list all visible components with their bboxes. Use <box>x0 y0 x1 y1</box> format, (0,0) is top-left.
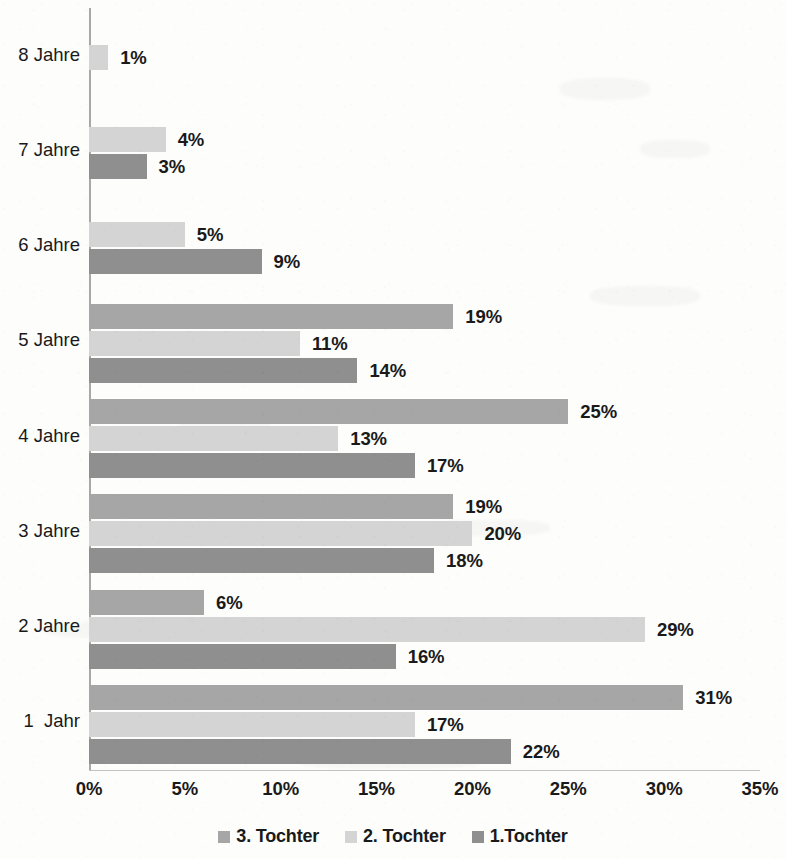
bar-value-label: 16% <box>408 644 445 669</box>
x-axis-tick: 25% <box>550 778 587 800</box>
y-axis-label: 7 Jahre <box>0 139 80 161</box>
legend-item[interactable]: 1.Tochter <box>472 826 568 847</box>
bar-2-1-tochter <box>89 249 262 274</box>
legend-swatch-icon <box>472 831 484 843</box>
y-axis-label: 4 Jahre <box>0 425 80 447</box>
legend-item[interactable]: 3. Tochter <box>218 826 319 847</box>
bar-value-label: 31% <box>695 685 732 710</box>
legend-swatch-icon <box>345 831 357 843</box>
bar-7-2-tochter <box>89 712 415 737</box>
bar-0-2-tochter <box>89 45 108 70</box>
bar-3-3-tochter <box>89 304 453 329</box>
legend-label: 3. Tochter <box>236 826 319 847</box>
bar-5-2-tochter <box>89 521 472 546</box>
y-axis-label: 5 Jahre <box>0 329 80 351</box>
y-axis-label: 8 Jahre <box>0 44 80 66</box>
x-axis-tick: 15% <box>358 778 395 800</box>
bar-6-3-tochter <box>89 590 204 615</box>
x-axis-tick: 20% <box>454 778 491 800</box>
bar-2-2-tochter <box>89 222 185 247</box>
bar-3-2-tochter <box>89 331 300 356</box>
bar-6-1-tochter <box>89 644 396 669</box>
bar-value-label: 20% <box>484 521 521 546</box>
x-axis-line <box>89 770 760 771</box>
bar-1-2-tochter <box>89 127 166 152</box>
y-axis-label: 6 Jahre <box>0 234 80 256</box>
x-axis-tick: 5% <box>171 778 198 800</box>
chart-legend: 3. Tochter2. Tochter1.Tochter <box>0 826 786 847</box>
bar-5-3-tochter <box>89 494 453 519</box>
bar-4-3-tochter <box>89 399 568 424</box>
bar-value-label: 13% <box>350 426 387 451</box>
bar-7-1-tochter <box>89 739 511 764</box>
bar-chart: 8 Jahre7 Jahre6 Jahre5 Jahre4 Jahre3 Jah… <box>0 0 786 859</box>
bar-3-1-tochter <box>89 358 357 383</box>
bar-value-label: 22% <box>523 739 560 764</box>
bar-4-2-tochter <box>89 426 338 451</box>
bar-value-label: 6% <box>216 590 243 615</box>
legend-label: 2. Tochter <box>363 826 446 847</box>
x-axis-tick: 30% <box>646 778 683 800</box>
bar-1-1-tochter <box>89 154 147 179</box>
bar-value-label: 25% <box>580 399 617 424</box>
plot-area: 1%4%3%5%9%19%11%14%25%13%17%19%20%18%6%2… <box>89 8 760 770</box>
legend-item[interactable]: 2. Tochter <box>345 826 446 847</box>
bar-7-3-tochter <box>89 685 683 710</box>
x-axis-tick-labels: 0%5%10%15%20%25%30%35% <box>0 778 786 808</box>
bar-value-label: 18% <box>446 548 483 573</box>
bar-value-label: 9% <box>274 249 301 274</box>
bar-value-label: 17% <box>427 712 464 737</box>
legend-swatch-icon <box>218 831 230 843</box>
bar-value-label: 17% <box>427 453 464 478</box>
bar-value-label: 11% <box>312 331 348 356</box>
legend-label: 1.Tochter <box>490 826 568 847</box>
y-axis-label: 3 Jahre <box>0 520 80 542</box>
x-axis-tick: 35% <box>741 778 778 800</box>
x-axis-tick: 0% <box>76 778 103 800</box>
bar-value-label: 4% <box>178 127 205 152</box>
y-axis-label: 1 Jahr <box>0 710 80 732</box>
x-axis-tick: 10% <box>262 778 299 800</box>
bar-value-label: 3% <box>159 154 186 179</box>
bar-5-1-tochter <box>89 548 434 573</box>
bar-value-label: 19% <box>465 304 502 329</box>
bar-4-1-tochter <box>89 453 415 478</box>
bar-value-label: 1% <box>120 45 147 70</box>
bar-value-label: 19% <box>465 494 502 519</box>
y-axis-label: 2 Jahre <box>0 615 80 637</box>
bar-value-label: 14% <box>369 358 406 383</box>
bar-value-label: 29% <box>657 617 694 642</box>
bar-6-2-tochter <box>89 617 645 642</box>
bar-value-label: 5% <box>197 222 224 247</box>
